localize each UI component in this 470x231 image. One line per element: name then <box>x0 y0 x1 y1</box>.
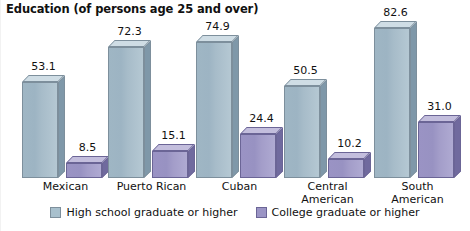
bar-value-label: 50.5 <box>279 64 333 77</box>
bar-face-top <box>108 40 151 47</box>
bar-value-label: 8.5 <box>61 141 115 154</box>
category-label: SouthAmerican <box>363 181 470 206</box>
bar-face-front <box>152 151 188 178</box>
legend-label-college: College graduate or higher <box>272 206 420 219</box>
bar-value-label: 31.0 <box>413 100 467 113</box>
legend-swatch-college <box>256 207 267 218</box>
bar-face-side <box>454 115 461 178</box>
legend-item-high-school[interactable]: High school graduate or higher <box>50 206 237 219</box>
bar-face-side <box>276 127 283 178</box>
bar-value-label: 72.3 <box>103 25 157 38</box>
bar-face-front <box>66 163 102 178</box>
education-bar-chart: Education (of persons age 25 and over) 5… <box>0 0 470 231</box>
bar-face-front <box>108 47 144 178</box>
bar-face-top <box>240 127 283 134</box>
bar-value-label: 53.1 <box>17 60 71 73</box>
category-label-line: South <box>363 181 470 194</box>
bar-value-label: 82.6 <box>369 6 423 19</box>
bar-face-side <box>58 75 65 178</box>
bar-face-top <box>196 35 239 42</box>
bar-face-top <box>374 21 417 28</box>
legend-swatch-high-school <box>50 207 61 218</box>
bar-face-front <box>328 159 364 178</box>
legend-item-college[interactable]: College graduate or higher <box>256 206 420 219</box>
bar-value-label: 15.1 <box>147 129 201 142</box>
bar-face-front <box>374 28 410 178</box>
bar-face-front <box>22 82 58 178</box>
legend-label-high-school: High school graduate or higher <box>66 206 237 219</box>
bar-face-front <box>418 122 454 178</box>
bar-face-top <box>418 115 461 122</box>
bar-face-top <box>328 152 371 159</box>
bar-face-side <box>144 40 151 178</box>
bar-face-front <box>240 134 276 178</box>
bar-face-top <box>152 144 195 151</box>
bar-face-front <box>196 42 232 178</box>
bar-face-top <box>66 156 109 163</box>
bar-face-top <box>22 75 65 82</box>
category-label-line: American <box>363 194 470 207</box>
chart-legend: High school graduate or higher College g… <box>0 206 470 219</box>
bar-value-label: 74.9 <box>191 20 245 33</box>
bar-face-front <box>284 86 320 178</box>
bar-value-label: 10.2 <box>323 137 377 150</box>
bar-face-side <box>320 80 327 178</box>
bar-face-top <box>284 79 327 86</box>
bar-face-side <box>232 35 239 178</box>
plot-area: 53.18.572.315.174.924.450.510.282.631.0 <box>0 18 470 178</box>
bar-value-label: 24.4 <box>235 112 289 125</box>
chart-title: Education (of persons age 25 and over) <box>6 2 258 16</box>
